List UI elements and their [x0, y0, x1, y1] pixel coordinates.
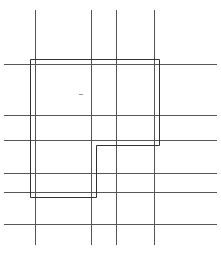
floor-plan-diagram [0, 0, 221, 254]
diagram-background [0, 0, 221, 254]
